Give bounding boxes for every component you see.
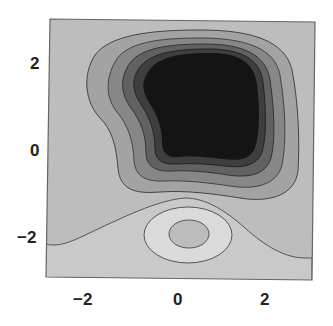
contour-plot (0, 0, 333, 326)
y-tick-label-neg2: −2 (17, 229, 36, 246)
x-tick-label-neg2: −2 (73, 291, 92, 308)
contour-shallow-core (169, 220, 209, 248)
y-tick-label-2: 2 (30, 55, 39, 72)
x-tick-label-2: 2 (260, 291, 269, 308)
y-tick-label-0: 0 (30, 142, 39, 159)
x-tick-label-0: 0 (173, 291, 182, 308)
